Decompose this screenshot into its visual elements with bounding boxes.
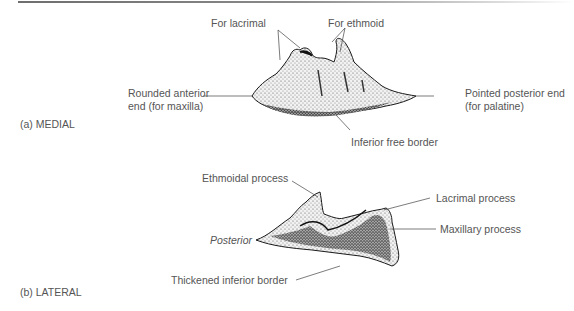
label-posterior-end-1: Pointed posterior end [465, 87, 565, 99]
label-lacrimal-process: Lacrimal process [436, 192, 515, 204]
caption-medial: (a) MEDIAL [20, 118, 75, 130]
label-anterior-end-1: Rounded anterior [128, 87, 209, 99]
medial-bone [252, 38, 416, 116]
lateral-bone [256, 192, 399, 266]
caption-lateral: (b) LATERAL [20, 286, 82, 298]
label-thickened-inferior-border: Thickened inferior border [171, 274, 288, 286]
bone-illustrations [0, 0, 574, 311]
label-anterior-end-2: end (for maxilla) [128, 100, 203, 112]
label-inferior-free-border: Inferior free border [351, 136, 438, 148]
label-posterior: Posterior [210, 234, 252, 246]
label-for-ethmoid: For ethmoid [328, 17, 384, 29]
label-maxillary-process: Maxillary process [440, 223, 521, 235]
label-posterior-end-2: (for palatine) [465, 100, 524, 112]
label-for-lacrimal: For lacrimal [211, 17, 266, 29]
label-ethmoidal-process: Ethmoidal process [202, 172, 288, 184]
